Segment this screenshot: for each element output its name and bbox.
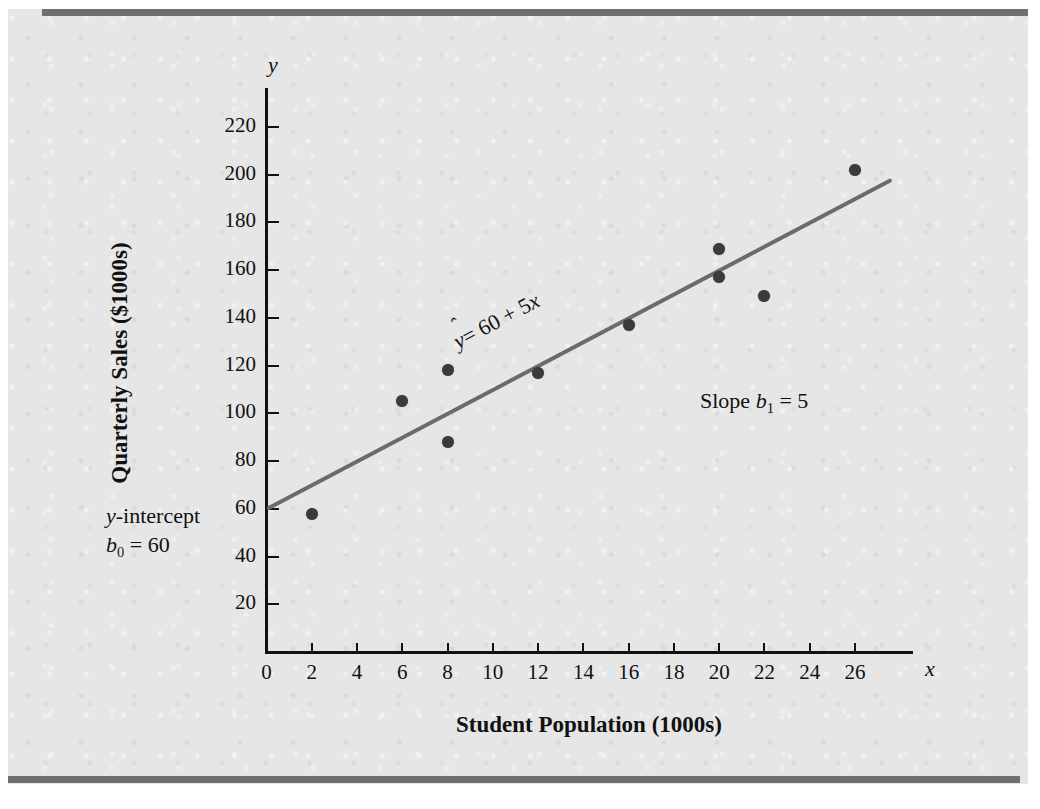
intercept-value: = 60 — [130, 532, 170, 557]
x-tick — [492, 643, 494, 652]
data-point — [532, 367, 544, 379]
y-tick — [268, 603, 279, 605]
y-axis-variable-label: y — [268, 52, 278, 78]
y-axis-title: Quarterly Sales ($1000s) — [107, 183, 133, 543]
y-tick-label: 20 — [196, 590, 256, 615]
y-tick-label: 200 — [196, 161, 256, 186]
x-tick — [673, 643, 675, 652]
y-tick — [268, 126, 279, 128]
regression-equation-annotation: ̂y= 60 + 5x — [449, 288, 544, 355]
y-tick — [268, 460, 279, 462]
x-tick-label: 20 — [699, 660, 739, 685]
y-tick — [268, 269, 279, 271]
x-axis-variable-label: x — [925, 656, 935, 682]
x-axis-line — [265, 651, 913, 654]
x-tick — [628, 643, 630, 652]
y-tick-label: 100 — [196, 399, 256, 424]
x-tick — [809, 643, 811, 652]
slope-subscript: 1 — [767, 400, 774, 416]
y-tick — [268, 317, 279, 319]
x-tick — [537, 643, 539, 652]
x-tick — [311, 643, 313, 652]
x-tick — [401, 643, 403, 652]
x-tick-label: 10 — [473, 660, 513, 685]
x-tick-label: 24 — [790, 660, 830, 685]
y-tick — [268, 556, 279, 558]
data-point — [442, 436, 454, 448]
x-tick — [718, 643, 720, 652]
x-tick-label: 0 — [247, 660, 287, 685]
y-tick-label: 160 — [196, 256, 256, 281]
data-point — [306, 508, 318, 520]
x-tick-label: 6 — [382, 660, 422, 685]
x-tick-label: 4 — [337, 660, 377, 685]
page-canvas: y x 02468101214161820222426 204060801001… — [0, 0, 1040, 809]
slope-symbol: b — [756, 388, 767, 413]
x-tick-label: 8 — [428, 660, 468, 685]
x-tick — [854, 643, 856, 652]
data-point — [396, 395, 408, 407]
x-tick — [582, 643, 584, 652]
y-tick-label: 140 — [196, 304, 256, 329]
x-tick — [763, 643, 765, 652]
x-tick-label: 12 — [518, 660, 558, 685]
data-point — [713, 243, 725, 255]
x-tick-label: 18 — [654, 660, 694, 685]
x-axis-title: Student Population (1000s) — [265, 712, 913, 738]
y-tick — [268, 412, 279, 414]
scatter-plot: y x 02468101214161820222426 204060801001… — [0, 0, 1040, 809]
equation-rhs: = 60 + 5 — [458, 292, 535, 349]
y-tick — [268, 365, 279, 367]
y-tick — [268, 221, 279, 223]
data-point — [713, 271, 725, 283]
y-tick-label: 80 — [196, 447, 256, 472]
x-tick-label: 16 — [609, 660, 649, 685]
slope-word: Slope — [700, 388, 750, 413]
regression-line — [266, 178, 893, 511]
x-tick-label: 2 — [292, 660, 332, 685]
data-point — [849, 164, 861, 176]
y-tick-label: 220 — [196, 113, 256, 138]
x-tick — [447, 643, 449, 652]
x-tick-label: 22 — [744, 660, 784, 685]
x-tick — [356, 643, 358, 652]
y-tick-label: 120 — [196, 352, 256, 377]
x-tick-label: 26 — [835, 660, 875, 685]
data-point — [442, 364, 454, 376]
slope-value: = 5 — [779, 388, 808, 413]
data-point — [758, 290, 770, 302]
x-tick-label: 14 — [563, 660, 603, 685]
y-tick-label: 40 — [196, 543, 256, 568]
y-tick — [268, 174, 279, 176]
data-point — [623, 319, 635, 331]
y-tick-label: 180 — [196, 208, 256, 233]
intercept-subscript: 0 — [117, 544, 124, 560]
slope-annotation: Slope b1 = 5 — [700, 388, 808, 417]
y-tick-label: 60 — [196, 495, 256, 520]
